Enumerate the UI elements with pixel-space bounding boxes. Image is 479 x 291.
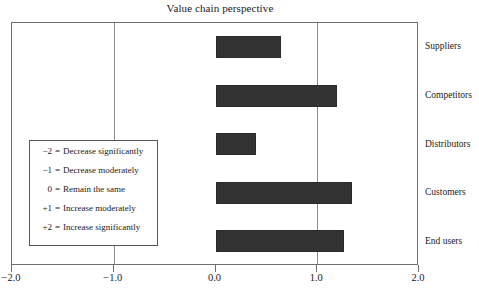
legend-key: +1 (37, 203, 52, 213)
legend-equals-sign: = (55, 203, 60, 213)
legend-entry: −1=Decrease moderately (30, 165, 157, 184)
bar-end-users[interactable] (216, 230, 344, 252)
legend-entry: −2=Decrease significantly (30, 146, 157, 165)
legend: −2=Decrease significantly−1=Decrease mod… (29, 140, 158, 246)
x-tick-mark (418, 265, 419, 272)
category-label-customers: Customers (425, 187, 466, 197)
x-tick-label: 2.0 (411, 272, 424, 283)
x-tick-mark (215, 265, 216, 272)
legend-entry: +1=Increase moderately (30, 203, 157, 222)
bar-customers[interactable] (216, 182, 352, 204)
legend-text: Decrease moderately (63, 165, 139, 175)
x-tick-mark (113, 265, 114, 272)
x-tick-label: 0.0 (208, 272, 221, 283)
legend-text: Increase moderately (63, 203, 136, 213)
legend-key: 0 (37, 184, 52, 194)
plot-area: −2=Decrease significantly−1=Decrease mod… (11, 22, 418, 265)
category-label-distributors: Distributors (425, 139, 470, 149)
bar-suppliers[interactable] (216, 36, 281, 58)
x-tick-label: 1.0 (310, 272, 323, 283)
legend-entry: 0=Remain the same (30, 184, 157, 203)
legend-key: −2 (37, 146, 52, 156)
bar-competitors[interactable] (216, 85, 337, 107)
legend-key: +2 (37, 222, 52, 232)
category-label-suppliers: Suppliers (425, 41, 461, 51)
legend-equals-sign: = (55, 146, 60, 156)
x-tick-mark (11, 265, 12, 272)
category-label-end-users: End users (425, 236, 462, 246)
legend-text: Decrease significantly (63, 146, 143, 156)
legend-entry: +2=Increase significantly (30, 222, 157, 241)
chart-figure: Value chain perspective −2=Decrease sign… (0, 0, 479, 291)
legend-text: Increase significantly (63, 222, 140, 232)
x-tick-mark (316, 265, 317, 272)
bar-distributors[interactable] (216, 133, 257, 155)
x-tick-label: −1.0 (103, 272, 122, 283)
chart-title: Value chain perspective (0, 2, 440, 14)
legend-key: −1 (37, 165, 52, 175)
legend-text: Remain the same (63, 184, 125, 194)
legend-equals-sign: = (55, 222, 60, 232)
legend-equals-sign: = (55, 165, 60, 175)
category-label-competitors: Competitors (425, 90, 472, 100)
bar-row (12, 72, 417, 121)
bar-row (12, 23, 417, 72)
x-tick-label: −2.0 (1, 272, 20, 283)
legend-equals-sign: = (55, 184, 60, 194)
